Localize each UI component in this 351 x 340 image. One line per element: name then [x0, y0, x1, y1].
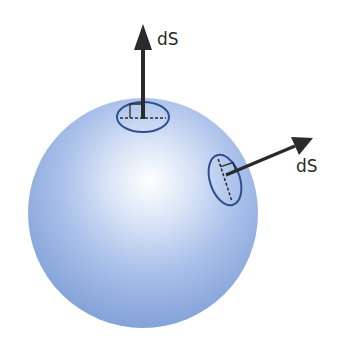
flux-diagram: dS dS — [0, 0, 351, 340]
top-vector-label: dS — [157, 29, 179, 49]
side-vector-label: dS — [296, 156, 318, 176]
